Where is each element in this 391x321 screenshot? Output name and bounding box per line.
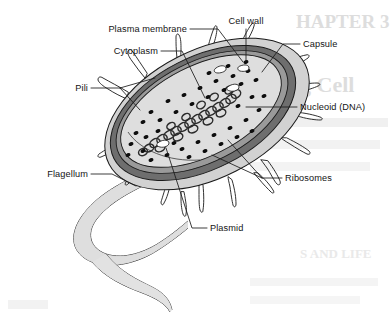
label-cell-wall: Cell wall [228,16,263,26]
label-ribosomes: Ribosomes [285,173,332,183]
ghost-line-2: S AND LIFE [300,246,372,261]
label-pili: Pili [75,83,88,93]
ghost-smudge-f [8,300,48,309]
label-plasmid: Plasmid [210,223,243,233]
label-nucleoid-dna: Nucleoid (DNA) [300,102,365,112]
ghost-line-0: HAPTER 3 [296,11,389,32]
cell-diagram-canvas: HAPTER 3 g Cell S AND LIFE [0,0,391,321]
plasmid-loop [238,65,249,71]
label-capsule: Capsule [303,39,337,49]
prokaryotic-cell-figure: HAPTER 3 g Cell S AND LIFE [0,0,391,321]
ghost-smudge-e [250,296,360,304]
flagellum-tail-fill [92,254,172,312]
pilus-12 [199,183,204,212]
label-cytoplasm: Cytoplasm [114,46,159,56]
ghost-smudge-d [250,278,378,286]
label-plasma-membrane: Plasma membrane [108,24,187,34]
pilus-11 [228,177,236,207]
label-flagellum: Flagellum [47,169,88,179]
